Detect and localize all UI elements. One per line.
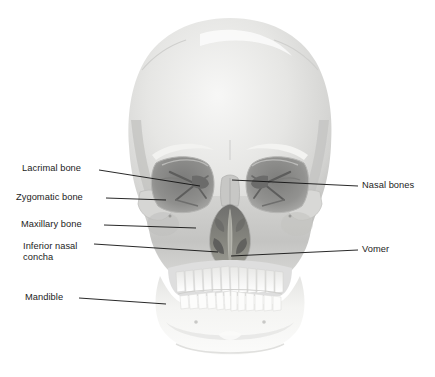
cheek-shadow-left xyxy=(147,212,179,236)
skull-body xyxy=(128,18,331,355)
infraorbital-foramen-right xyxy=(289,215,292,218)
label-maxillary-bone: Maxillary bone xyxy=(21,219,82,231)
mental-foramen-right xyxy=(262,320,266,324)
label-inferior-nasal-concha: Inferior nasal xyxy=(23,241,77,253)
cheek-shadow-right xyxy=(281,212,313,236)
label-nasal-bones: Nasal bones xyxy=(362,180,414,192)
skull-diagram: Lacrimal bone Zygomatic bone Maxillary b… xyxy=(0,0,435,377)
infraorbital-foramen-left xyxy=(169,215,172,218)
label-lacrimal-bone: Lacrimal bone xyxy=(22,163,81,175)
label-inferior-nasal-concha-line2: concha xyxy=(23,252,53,264)
orbit-left xyxy=(151,157,214,213)
label-zygomatic-bone: Zygomatic bone xyxy=(16,192,83,204)
label-mandible: Mandible xyxy=(25,292,63,304)
mental-foramen-left xyxy=(194,320,198,324)
leader-mandible xyxy=(79,298,166,304)
label-vomer: Vomer xyxy=(362,244,389,256)
orbit-right xyxy=(246,157,309,213)
